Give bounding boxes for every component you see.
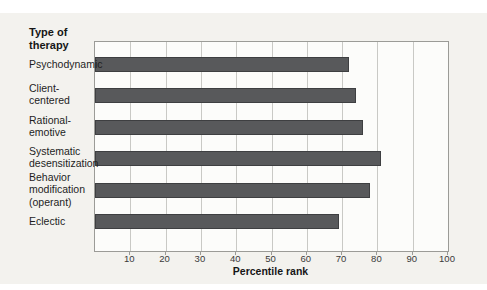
tick-mark-70 xyxy=(341,251,342,255)
category-label-6: Eclectic xyxy=(29,214,65,227)
tick-mark-40 xyxy=(235,251,236,255)
bar-eclectic xyxy=(95,214,339,229)
gridline-90 xyxy=(413,42,414,251)
tick-mark-80 xyxy=(376,251,377,255)
category-label-4: Systematicdesensitization xyxy=(29,145,98,170)
category-label-3: Rational-emotive xyxy=(29,114,71,139)
category-label-5: Behaviormodification(operant) xyxy=(29,171,85,209)
tick-mark-10 xyxy=(129,251,130,255)
bar-chart: Type of therapy PsychodynamicClient-cent… xyxy=(0,0,487,290)
tick-mark-20 xyxy=(165,251,166,255)
gridline-80 xyxy=(377,42,378,251)
tick-mark-60 xyxy=(306,251,307,255)
tick-mark-100 xyxy=(447,251,448,255)
y-axis-title-line2: therapy xyxy=(29,39,69,52)
bar-systematic-desensitization xyxy=(95,151,381,166)
bar-behavior-modification-operant xyxy=(95,183,370,198)
gridline-70 xyxy=(342,42,343,251)
y-axis-title-line1: Type of xyxy=(29,26,69,39)
bar-rational-emotive xyxy=(95,120,363,135)
plot-area xyxy=(94,41,449,252)
y-axis-title: Type of therapy xyxy=(29,26,69,52)
category-label-1: Psychodynamic xyxy=(29,57,103,70)
bar-psychodynamic xyxy=(95,57,349,72)
tick-mark-30 xyxy=(200,251,201,255)
category-label-2: Client-centered xyxy=(29,82,70,107)
bar-client-centered xyxy=(95,88,356,103)
tick-mark-50 xyxy=(271,251,272,255)
x-axis-label: Percentile rank xyxy=(94,265,447,277)
tick-mark-90 xyxy=(412,251,413,255)
